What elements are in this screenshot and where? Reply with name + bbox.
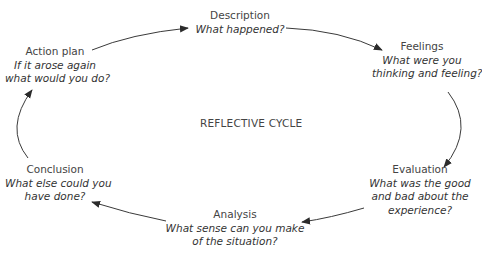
stage-question: What else could you <box>5 177 105 191</box>
arrow-conclusion-to-action <box>17 90 32 158</box>
stage-question: What was the good <box>365 177 475 191</box>
stage-title: Conclusion <box>5 163 105 177</box>
stage-conclusion: Conclusion What else could you have done… <box>5 163 105 204</box>
stage-question: What happened? <box>190 23 290 37</box>
arrow-evaluation-to-analysis <box>302 208 364 222</box>
arrow-analysis-to-conclusion <box>92 202 166 221</box>
stage-title: Evaluation <box>365 163 475 177</box>
stage-analysis: Analysis What sense can you make of the … <box>165 208 305 249</box>
stage-title: Description <box>190 9 290 23</box>
stage-title: Feelings <box>372 40 472 54</box>
stage-question: What were you <box>372 54 472 68</box>
stage-title: Action plan <box>5 45 105 59</box>
cycle-center-label: REFLECTIVE CYCLE <box>200 117 302 129</box>
stage-description: Description What happened? <box>190 9 290 36</box>
stage-title: Analysis <box>165 208 305 222</box>
stage-feelings: Feelings What were you thinking and feel… <box>372 40 472 81</box>
stage-question: of the situation? <box>165 235 305 249</box>
stage-question: and bad about the <box>365 190 475 204</box>
arrow-description-to-feelings <box>286 28 382 50</box>
arrow-feelings-to-evaluation <box>444 92 461 167</box>
stage-evaluation: Evaluation What was the good and bad abo… <box>365 163 475 217</box>
stage-question: what would you do? <box>5 72 105 86</box>
stage-question: have done? <box>5 190 105 204</box>
stage-action-plan: Action plan If it arose again what would… <box>5 45 105 86</box>
arrow-action-to-description <box>92 28 188 50</box>
stage-question: If it arose again <box>5 59 105 73</box>
stage-question: thinking and feeling? <box>372 67 472 81</box>
stage-question: experience? <box>365 204 475 218</box>
stage-question: What sense can you make <box>165 222 305 236</box>
